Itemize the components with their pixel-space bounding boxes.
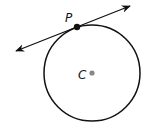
label-c: C	[78, 68, 87, 82]
tangent-line	[16, 6, 130, 51]
tangent-diagram: P C	[0, 0, 147, 130]
point-p	[74, 24, 80, 30]
label-p: P	[65, 11, 73, 25]
center-point-c	[89, 70, 94, 75]
